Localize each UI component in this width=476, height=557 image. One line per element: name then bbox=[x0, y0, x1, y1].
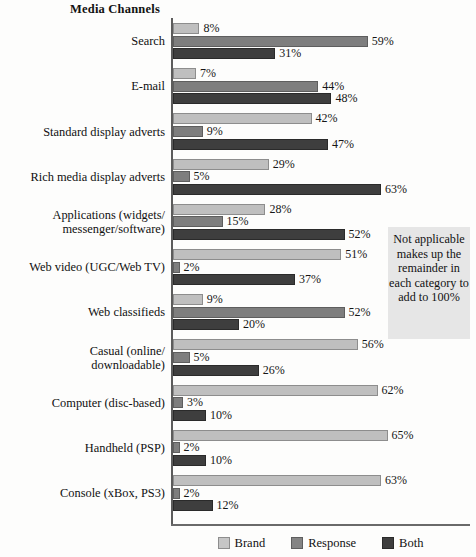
bar-brand[interactable] bbox=[173, 113, 312, 124]
bar-both[interactable] bbox=[173, 229, 345, 240]
bar-value-label: 20% bbox=[239, 316, 265, 332]
bar-value-label: 42% bbox=[312, 110, 338, 126]
legend-item-brand[interactable]: Brand bbox=[218, 536, 266, 551]
category-label: Web classifieds bbox=[0, 305, 165, 319]
bar-value-label: 63% bbox=[381, 181, 407, 197]
bar-value-label: 15% bbox=[223, 213, 249, 229]
category-label: Handheld (PSP) bbox=[0, 441, 165, 455]
bar-both[interactable] bbox=[173, 410, 206, 421]
bar-brand[interactable] bbox=[173, 475, 381, 486]
bar-response[interactable] bbox=[173, 126, 203, 137]
bar-value-label: 52% bbox=[345, 226, 371, 242]
bar-brand[interactable] bbox=[173, 385, 378, 396]
bar-value-label: 65% bbox=[388, 427, 414, 443]
bar-value-label: 52% bbox=[345, 304, 371, 320]
bar-value-label: 10% bbox=[206, 407, 232, 423]
x-axis-line bbox=[171, 524, 470, 526]
bar-value-label: 37% bbox=[295, 271, 321, 287]
bar-response[interactable] bbox=[173, 81, 318, 92]
bar-value-label: 7% bbox=[196, 65, 216, 81]
bar-value-label: 12% bbox=[213, 497, 239, 513]
legend-label: Response bbox=[308, 536, 356, 551]
legend-label: Brand bbox=[235, 536, 266, 551]
bar-value-label: 26% bbox=[259, 362, 285, 378]
bar-response[interactable] bbox=[173, 216, 223, 227]
bar-value-label: 2% bbox=[180, 259, 200, 275]
legend-item-response[interactable]: Response bbox=[291, 536, 356, 551]
bar-value-label: 3% bbox=[183, 394, 203, 410]
legend-swatch-icon bbox=[218, 537, 230, 549]
category-label: E-mail bbox=[0, 79, 165, 93]
bar-both[interactable] bbox=[173, 500, 213, 511]
category-label: Applications (widgets/ messenger/softwar… bbox=[0, 208, 165, 236]
bar-value-label: 29% bbox=[269, 156, 295, 172]
bar-value-label: 63% bbox=[381, 472, 407, 488]
bar-response[interactable] bbox=[173, 488, 180, 499]
bar-value-label: 5% bbox=[190, 168, 210, 184]
bar-brand[interactable] bbox=[173, 23, 199, 34]
category-label: Casual (online/ downloadable) bbox=[0, 344, 165, 372]
bar-value-label: 2% bbox=[180, 439, 200, 455]
bar-response[interactable] bbox=[173, 352, 190, 363]
bar-both[interactable] bbox=[173, 93, 331, 104]
bar-both[interactable] bbox=[173, 455, 206, 466]
bar-value-label: 2% bbox=[180, 485, 200, 501]
chart-legend: BrandResponseBoth bbox=[171, 532, 470, 554]
bar-brand[interactable] bbox=[173, 294, 203, 305]
bar-both[interactable] bbox=[173, 184, 381, 195]
bar-brand[interactable] bbox=[173, 159, 269, 170]
category-label: Computer (disc-based) bbox=[0, 396, 165, 410]
bar-brand[interactable] bbox=[173, 430, 388, 441]
bar-both[interactable] bbox=[173, 48, 275, 59]
horizontal-bar-chart: Media Channels SearchE-mailStandard disp… bbox=[0, 0, 476, 557]
bar-both[interactable] bbox=[173, 319, 239, 330]
bar-value-label: 62% bbox=[378, 382, 404, 398]
legend-swatch-icon bbox=[382, 537, 394, 549]
bar-value-label: 9% bbox=[203, 291, 223, 307]
bar-value-label: 28% bbox=[265, 201, 291, 217]
category-label: Web video (UGC/Web TV) bbox=[0, 260, 165, 274]
bar-value-label: 31% bbox=[275, 45, 301, 61]
bar-response[interactable] bbox=[173, 397, 183, 408]
category-label: Rich media display adverts bbox=[0, 170, 165, 184]
legend-item-both[interactable]: Both bbox=[382, 536, 423, 551]
legend-label: Both bbox=[399, 536, 423, 551]
bar-value-label: 59% bbox=[368, 33, 394, 49]
legend-swatch-icon bbox=[291, 537, 303, 549]
page-title: Media Channels bbox=[70, 2, 160, 17]
bar-response[interactable] bbox=[173, 171, 190, 182]
bar-value-label: 5% bbox=[190, 349, 210, 365]
bar-brand[interactable] bbox=[173, 68, 196, 79]
category-label: Console (xBox, PS3) bbox=[0, 486, 165, 500]
annotation-note: Not applicable makes up the remainder in… bbox=[388, 227, 470, 339]
bar-value-label: 56% bbox=[358, 336, 384, 352]
category-label: Search bbox=[0, 34, 165, 48]
bar-value-label: 51% bbox=[341, 246, 367, 262]
bar-brand[interactable] bbox=[173, 204, 265, 215]
bar-value-label: 48% bbox=[331, 90, 357, 106]
bar-response[interactable] bbox=[173, 442, 180, 453]
bar-response[interactable] bbox=[173, 262, 180, 273]
bar-value-label: 9% bbox=[203, 123, 223, 139]
bar-value-label: 10% bbox=[206, 452, 232, 468]
bar-both[interactable] bbox=[173, 365, 259, 376]
category-label: Standard display adverts bbox=[0, 125, 165, 139]
bar-both[interactable] bbox=[173, 274, 295, 285]
bar-value-label: 8% bbox=[199, 20, 219, 36]
bar-response[interactable] bbox=[173, 36, 368, 47]
bar-value-label: 47% bbox=[328, 136, 354, 152]
bar-both[interactable] bbox=[173, 139, 328, 150]
